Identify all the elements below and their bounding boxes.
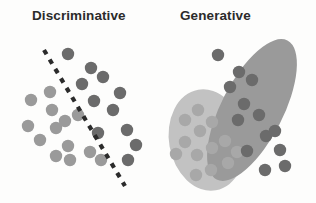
data-point-dark (97, 71, 109, 83)
data-point-light (179, 136, 191, 148)
data-point-light (179, 114, 191, 126)
data-point-dark (253, 109, 265, 121)
data-point-dark (224, 81, 236, 93)
data-point-dark (269, 125, 281, 137)
data-point-light (219, 135, 231, 147)
data-point-dark (76, 78, 88, 90)
generative-cluster-shapes (161, 26, 315, 196)
data-point-light (222, 157, 234, 169)
data-point-dark (88, 95, 100, 107)
data-point-light (25, 94, 37, 106)
data-point-dark (241, 145, 253, 157)
data-point-light (191, 149, 203, 161)
data-point-dark (114, 87, 126, 99)
data-point-dark (246, 74, 258, 86)
data-point-light (44, 86, 56, 98)
data-point-dark (107, 104, 119, 116)
decision-boundary-group (44, 50, 125, 186)
dashed-decision-boundary (44, 50, 125, 186)
data-point-dark (274, 144, 286, 156)
data-point-light (194, 125, 206, 137)
data-point-light (22, 120, 34, 132)
data-point-light (50, 150, 62, 162)
data-point-light (206, 142, 218, 154)
data-point-dark (233, 66, 245, 78)
data-point-dark (62, 48, 74, 60)
diagram-svg (0, 0, 316, 203)
data-point-dark (238, 98, 250, 110)
data-point-light (190, 169, 202, 181)
data-point-dark (122, 154, 134, 166)
data-point-light (62, 140, 74, 152)
data-point-light (46, 104, 58, 116)
data-point-dark (130, 139, 142, 151)
data-point-light (205, 164, 217, 176)
data-point-light (59, 115, 71, 127)
data-point-light (84, 146, 96, 158)
data-point-dark (85, 62, 97, 74)
data-point-dark (279, 160, 291, 172)
data-point-light (192, 104, 204, 116)
figure-canvas: Discriminative Generative (0, 0, 316, 203)
data-point-dark (212, 49, 224, 61)
data-point-light (206, 116, 218, 128)
data-point-light (64, 154, 76, 166)
data-point-dark (259, 164, 271, 176)
data-point-dark (121, 124, 133, 136)
data-point-light (170, 148, 182, 160)
data-point-light (34, 134, 46, 146)
data-point-dark (232, 114, 244, 126)
